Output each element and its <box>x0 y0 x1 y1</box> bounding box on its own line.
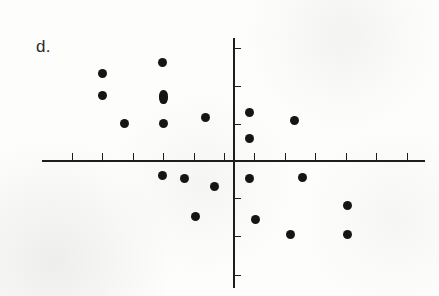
y-axis-tick <box>234 198 241 199</box>
scatter-plot-figure: d. <box>0 0 439 296</box>
data-point <box>245 174 254 183</box>
data-point <box>158 58 167 67</box>
data-point <box>245 108 254 117</box>
data-point <box>98 91 107 100</box>
data-point <box>210 182 219 191</box>
x-axis-tick <box>224 153 225 160</box>
data-point <box>201 113 210 122</box>
data-point <box>251 215 260 224</box>
data-point <box>191 212 200 221</box>
data-point <box>120 119 129 128</box>
data-point <box>180 174 189 183</box>
data-point <box>343 201 352 210</box>
data-point <box>343 230 352 239</box>
x-axis-tick <box>163 153 164 160</box>
data-point <box>290 116 299 125</box>
x-axis-tick <box>376 153 377 160</box>
figure-label: d. <box>36 38 51 55</box>
x-axis-tick <box>315 153 316 160</box>
data-point <box>98 69 107 78</box>
data-point <box>245 134 254 143</box>
data-point <box>298 173 307 182</box>
x-axis-tick <box>133 153 134 160</box>
x-axis-tick <box>254 153 255 160</box>
data-point-overlapping-pair <box>159 90 168 104</box>
y-axis-tick <box>234 48 241 49</box>
x-axis-tick <box>194 153 195 160</box>
x-axis-tick <box>346 153 347 160</box>
data-point <box>158 171 167 180</box>
x-axis-tick <box>285 153 286 160</box>
y-axis-tick <box>234 124 241 125</box>
x-axis-tick <box>407 153 408 160</box>
scanned-page-background: d. <box>0 0 439 296</box>
x-axis-tick <box>72 153 73 160</box>
y-axis-tick <box>234 86 241 87</box>
data-point <box>286 230 295 239</box>
x-axis-tick <box>102 153 103 160</box>
y-axis-line <box>233 38 235 288</box>
y-axis-tick <box>234 275 241 276</box>
y-axis-tick <box>234 236 241 237</box>
data-point <box>159 119 168 128</box>
